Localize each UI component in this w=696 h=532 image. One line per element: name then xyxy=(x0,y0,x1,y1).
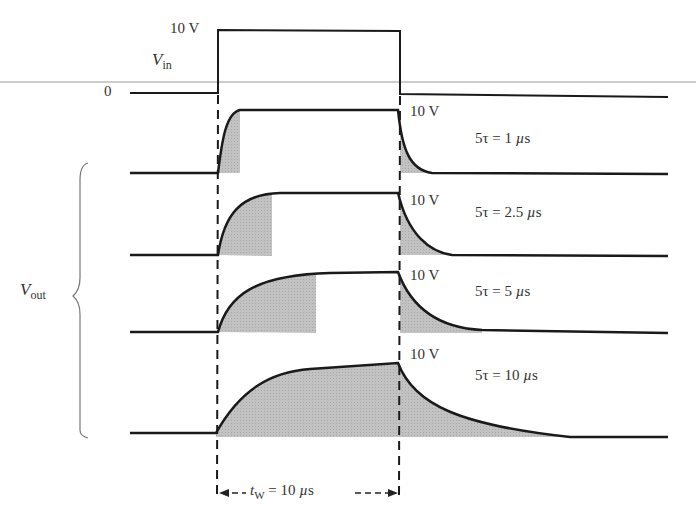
vout-label: Vout xyxy=(20,280,46,303)
pulse-end-guide xyxy=(399,96,400,500)
vin-zero-label: 0 xyxy=(104,83,112,100)
discharge-shade-1 xyxy=(400,111,432,173)
vin-high-label: 10 V xyxy=(170,20,199,37)
peak-label-4: 10 V xyxy=(410,346,439,363)
tau-label-2: 5τ = 2.5 µs xyxy=(475,204,542,221)
left-arrowhead-icon xyxy=(219,489,229,497)
right-arrowhead-icon xyxy=(388,489,398,497)
tau-label-4: 5τ = 10 µs xyxy=(475,367,538,384)
vin-pulse-trace xyxy=(130,30,668,97)
pulse-width-label: tW = 10 µs xyxy=(250,482,314,501)
vin-label: Vin xyxy=(152,50,172,73)
peak-label-3: 10 V xyxy=(410,267,439,284)
tau-label-1: 5τ = 1 µs xyxy=(475,130,530,147)
peak-label-1: 10 V xyxy=(410,103,439,120)
vout-brace xyxy=(73,163,88,438)
tau-label-3: 5τ = 5 µs xyxy=(475,283,530,300)
peak-label-2: 10 V xyxy=(410,192,439,209)
pulse-start-guide xyxy=(217,95,218,500)
pulse-response-diagram xyxy=(0,0,696,532)
